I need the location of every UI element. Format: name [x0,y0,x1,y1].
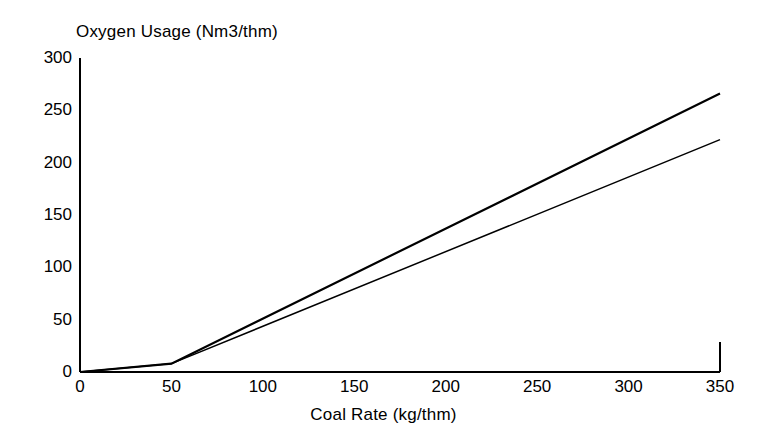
x-axis-title: Coal Rate (kg/thm) [0,405,767,425]
plot-area [0,0,767,447]
series-line-upper [80,94,720,372]
series-line-lower [80,140,720,372]
oxygen-usage-chart: Oxygen Usage (Nm3/thm) 05010015020025030… [0,0,767,447]
